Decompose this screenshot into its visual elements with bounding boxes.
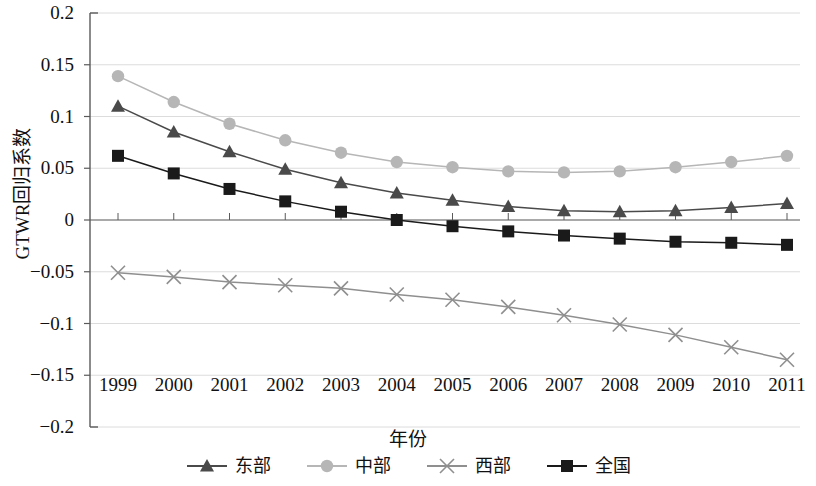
x-tick-label: 2005 [434, 374, 472, 396]
legend-key-triangle-icon [185, 458, 229, 474]
data-point-square [781, 239, 793, 251]
square-marker [168, 167, 180, 179]
circle-marker [223, 118, 235, 130]
square-marker [502, 225, 514, 237]
data-point-triangle [780, 196, 794, 209]
x-tick-label: 2004 [378, 374, 416, 396]
data-point-square [558, 230, 570, 242]
circle-marker [725, 156, 737, 168]
circle-marker [502, 165, 514, 177]
square-marker [614, 233, 626, 245]
x-tick-label: 2008 [601, 374, 639, 396]
data-point-triangle [223, 145, 237, 158]
data-point-square [447, 220, 459, 232]
square-marker [781, 239, 793, 251]
x-tick-label: 2010 [712, 374, 750, 396]
triangle-marker [167, 125, 181, 137]
x-tick-label: 2003 [322, 374, 360, 396]
data-point-circle [446, 161, 458, 173]
data-point-circle [168, 96, 180, 108]
triangle-marker [780, 196, 794, 209]
data-point-square [614, 233, 626, 245]
x-tick-label: 2002 [266, 374, 304, 396]
data-point-circle [614, 165, 626, 177]
data-point-circle [669, 161, 681, 173]
x-tick-label: 2000 [155, 374, 193, 396]
series-line [118, 273, 787, 360]
chart-legend: 东部中部西部全国 [0, 457, 816, 475]
data-point-circle [321, 460, 333, 472]
circle-marker [321, 460, 333, 472]
series-line [118, 76, 787, 172]
data-point-triangle [167, 125, 181, 137]
data-point-square [391, 214, 403, 226]
legend-label: 全国 [595, 457, 631, 475]
data-point-square [335, 206, 347, 218]
circle-marker [558, 166, 570, 178]
data-point-square [112, 150, 124, 162]
plot-area [0, 0, 816, 486]
data-point-cross [613, 318, 627, 332]
circle-marker [168, 96, 180, 108]
square-marker [670, 236, 682, 248]
data-point-circle [279, 134, 291, 146]
data-point-circle [391, 156, 403, 168]
circle-marker [446, 161, 458, 173]
legend-key-square-icon [545, 458, 589, 474]
x-tick-label: 2011 [768, 374, 805, 396]
legend-label: 西部 [475, 457, 511, 475]
data-point-circle [335, 147, 347, 159]
legend-item-东部: 东部 [185, 457, 271, 475]
x-tick-label: 2007 [545, 374, 583, 396]
square-marker [335, 206, 347, 218]
triangle-marker [223, 145, 237, 158]
x-tick-label: 2006 [489, 374, 527, 396]
data-point-circle [781, 150, 793, 162]
circle-marker [669, 161, 681, 173]
circle-marker [781, 150, 793, 162]
x-axis-title: 年份 [0, 424, 816, 451]
x-tick-label: 2009 [657, 374, 695, 396]
legend-label: 中部 [355, 457, 391, 475]
legend-key-circle-icon [305, 458, 349, 474]
data-point-circle [725, 156, 737, 168]
chart-container: GTWR回归系数 0.20.150.10.050−0.05−0.1−0.15−0… [0, 0, 816, 486]
data-point-cross [780, 353, 794, 367]
square-marker [725, 237, 737, 249]
data-point-circle [223, 118, 235, 130]
data-point-circle [112, 70, 124, 82]
square-marker [561, 460, 573, 472]
series-中部 [112, 70, 793, 179]
data-point-square [279, 195, 291, 207]
square-marker [558, 230, 570, 242]
data-point-cross [724, 340, 738, 354]
square-marker [279, 195, 291, 207]
x-tick-label: 1999 [99, 374, 137, 396]
square-marker [447, 220, 459, 232]
circle-marker [112, 70, 124, 82]
data-point-square [561, 460, 573, 472]
data-point-cross [669, 328, 683, 342]
square-marker [112, 150, 124, 162]
circle-marker [614, 165, 626, 177]
data-point-circle [502, 165, 514, 177]
data-point-square [502, 225, 514, 237]
square-marker [224, 183, 236, 195]
circle-marker [335, 147, 347, 159]
data-point-square [670, 236, 682, 248]
legend-key-cross-icon [425, 458, 469, 474]
legend-item-全国: 全国 [545, 457, 631, 475]
triangle-marker [111, 99, 125, 112]
legend-label: 东部 [235, 457, 271, 475]
data-point-square [224, 183, 236, 195]
data-point-circle [558, 166, 570, 178]
x-tick-label: 2001 [211, 374, 249, 396]
data-point-square [168, 167, 180, 179]
square-marker [391, 214, 403, 226]
legend-item-中部: 中部 [305, 457, 391, 475]
circle-marker [279, 134, 291, 146]
circle-marker [391, 156, 403, 168]
data-point-triangle [111, 99, 125, 112]
data-point-square [725, 237, 737, 249]
legend-item-西部: 西部 [425, 457, 511, 475]
